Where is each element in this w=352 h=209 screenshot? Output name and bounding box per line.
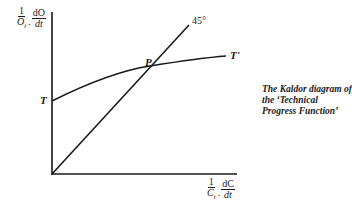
- curve-start-label: T: [40, 94, 47, 106]
- angle-label: 45°: [192, 15, 206, 26]
- figure-caption: The Kaldor diagram of the ‘Technical Pro…: [262, 84, 352, 117]
- 45-degree-line: [52, 25, 189, 174]
- y-axis-label: 1 Ot . dO dt: [16, 6, 46, 31]
- intersection-label: P: [145, 56, 152, 68]
- x-axis-label: 1 Ct . dC dt: [206, 177, 235, 202]
- curve-end-label: T': [230, 49, 240, 61]
